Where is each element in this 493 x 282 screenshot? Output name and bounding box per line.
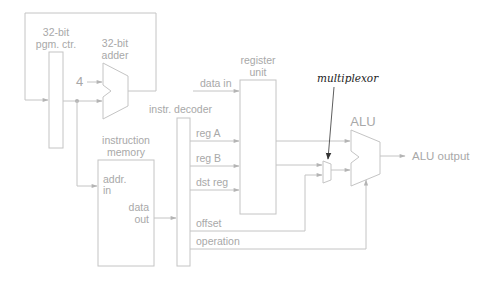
register-unit-box — [240, 80, 276, 214]
adder-shape — [103, 63, 128, 119]
register-unit-label-line2: unit — [250, 66, 267, 78]
decoder-output-dst-reg: dst reg — [196, 176, 228, 188]
memory-data-label-line1: data — [129, 201, 150, 213]
pc-label-line2: pgm. ctr. — [36, 38, 76, 50]
memory-label-line1: instruction — [102, 134, 150, 146]
adder-constant-4: 4 — [76, 74, 83, 89]
alu-label: ALU — [350, 114, 375, 129]
decoder-output-reg-b: reg B — [196, 152, 221, 164]
decoder-output-offset: offset — [196, 217, 222, 229]
decoder-label: instr. decoder — [149, 103, 213, 115]
memory-addr-label-line2: in — [103, 184, 111, 196]
register-data-in-label: data in — [200, 77, 232, 89]
register-unit-label-line1: register — [240, 54, 276, 66]
cpu-datapath-diagram: 32-bit pgm. ctr. 32-bit adder 4 instruct… — [0, 0, 493, 282]
program-counter-box — [49, 52, 63, 148]
decoder-output-operation: operation — [196, 235, 240, 247]
pc-label-line1: 32-bit — [43, 26, 69, 38]
multiplexor-pointer — [328, 87, 334, 159]
alu-output-label: ALU output — [412, 150, 470, 162]
adder-label-line1: 32-bit — [102, 37, 128, 49]
alu-shape — [351, 130, 380, 186]
pc-to-memory-wire — [77, 101, 97, 186]
memory-label-line2: memory — [107, 146, 146, 158]
adder-label-line2: adder — [102, 49, 129, 61]
multiplexor-shape — [323, 161, 331, 183]
decoder-output-reg-a: reg A — [196, 127, 221, 139]
multiplexor-annotation: multiplexor — [317, 72, 379, 84]
memory-data-label-line2: out — [134, 213, 149, 225]
instruction-decoder-box — [177, 118, 190, 266]
